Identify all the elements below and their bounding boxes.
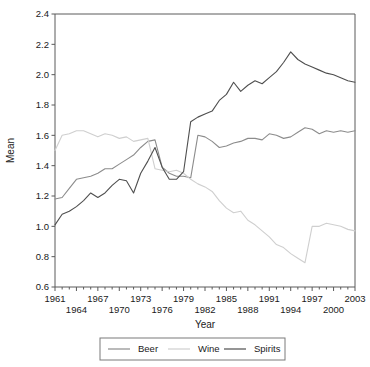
x-tick-label-upper: 1979 xyxy=(173,293,194,304)
line-chart: 2.42.22.01.81.61.41.21.00.80.61961196719… xyxy=(0,0,370,367)
x-tick-label-lower: 2000 xyxy=(323,304,344,315)
x-tick-label-upper: 1973 xyxy=(130,293,151,304)
legend-label-spirits: Spirits xyxy=(254,343,281,354)
x-tick-label-upper: 1985 xyxy=(216,293,237,304)
chart-figure: 2.42.22.01.81.61.41.21.00.80.61961196719… xyxy=(0,0,370,367)
x-tick-label-lower: 1994 xyxy=(280,304,301,315)
y-tick-label: 1.0 xyxy=(36,221,49,232)
series-line-spirits xyxy=(55,52,355,225)
y-tick-label: 1.6 xyxy=(36,130,49,141)
y-tick-label: 1.8 xyxy=(36,99,49,110)
x-tick-label-upper: 1991 xyxy=(259,293,280,304)
y-tick-label: 0.8 xyxy=(36,251,49,262)
legend-label-wine: Wine xyxy=(198,343,220,354)
y-tick-label: 1.2 xyxy=(36,190,49,201)
x-axis-title: Year xyxy=(195,319,216,330)
x-tick-label-upper: 1997 xyxy=(302,293,323,304)
x-tick-label-lower: 1982 xyxy=(194,304,215,315)
x-tick-label-upper: 2003 xyxy=(344,293,365,304)
y-tick-label: 0.6 xyxy=(36,281,49,292)
y-axis-title: Mean xyxy=(5,138,16,163)
y-tick-label: 2.0 xyxy=(36,69,49,80)
x-tick-label-lower: 1988 xyxy=(237,304,258,315)
y-tick-label: 1.4 xyxy=(36,160,49,171)
series-line-beer xyxy=(55,128,355,199)
legend-label-beer: Beer xyxy=(138,343,158,354)
x-tick-label-lower: 1976 xyxy=(152,304,173,315)
x-tick-label-lower: 1970 xyxy=(109,304,130,315)
x-tick-label-upper: 1967 xyxy=(87,293,108,304)
x-tick-label-upper: 1961 xyxy=(44,293,65,304)
y-tick-label: 2.2 xyxy=(36,39,49,50)
x-tick-label-lower: 1964 xyxy=(66,304,87,315)
y-tick-label: 2.4 xyxy=(36,8,49,19)
plot-frame xyxy=(55,14,355,287)
